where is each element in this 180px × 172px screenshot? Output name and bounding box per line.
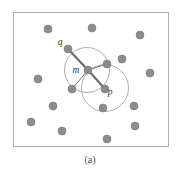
- data-point: [146, 69, 154, 77]
- data-point: [99, 104, 107, 112]
- data-point: [131, 122, 139, 130]
- data-point: [88, 24, 96, 32]
- data-point-m: [84, 66, 92, 74]
- data-point: [103, 135, 111, 143]
- data-point-q: [64, 45, 72, 53]
- data-point-n1: [103, 60, 111, 68]
- point-label-m: m: [73, 65, 80, 75]
- data-point: [136, 31, 144, 39]
- data-point-n2: [68, 85, 76, 93]
- figure-caption: (a): [84, 154, 95, 166]
- data-point: [44, 25, 52, 33]
- point-label-q: q: [58, 37, 63, 47]
- data-point: [118, 55, 126, 63]
- data-point: [34, 75, 42, 83]
- data-point: [27, 118, 35, 126]
- data-point: [58, 127, 66, 135]
- figure-canvas: qmp (a): [0, 0, 180, 172]
- data-point: [49, 102, 57, 110]
- figure-panel-a: qmp (a): [0, 0, 180, 172]
- data-point: [130, 102, 138, 110]
- point-label-p: p: [107, 87, 113, 97]
